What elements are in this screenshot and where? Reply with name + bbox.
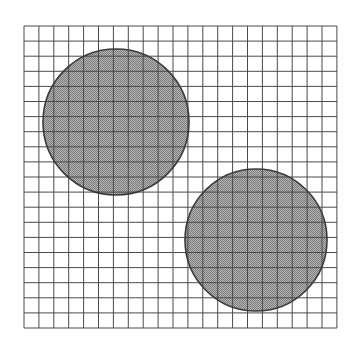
figure-canvas (0, 0, 360, 345)
grid-circles-diagram (0, 0, 360, 345)
